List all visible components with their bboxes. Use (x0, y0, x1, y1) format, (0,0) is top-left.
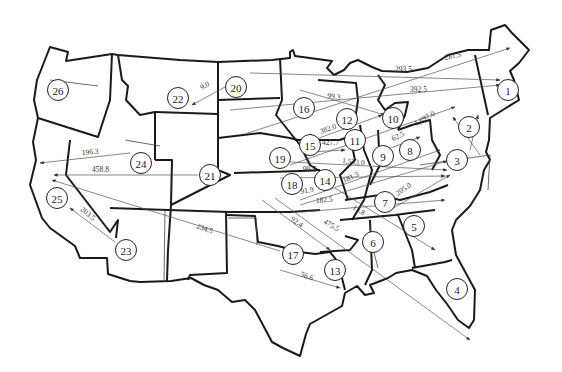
region-number: 22 (173, 93, 184, 105)
region-number: 2 (466, 122, 472, 134)
region-number: 9 (380, 151, 386, 163)
region-number: 4 (454, 284, 460, 296)
region-number: 6 (370, 237, 376, 249)
flow-value-label: 99.3 (327, 91, 341, 102)
us-outline (30, 25, 529, 356)
region-nodes: 1234567891011121314151617181920212223242… (47, 77, 519, 300)
region-number: 3 (454, 155, 460, 167)
region-node: 26 (48, 80, 69, 101)
boundary-co-nm (110, 208, 320, 212)
boundary-ny-ne (475, 55, 488, 115)
region-node: 1 (498, 80, 519, 101)
flow-value-label: 196.3 (81, 147, 99, 157)
region-number: 11 (350, 135, 361, 147)
region-number: 26 (53, 85, 65, 97)
region-node: 11 (345, 130, 366, 151)
region-node: 9 (373, 146, 394, 167)
region-number: 8 (407, 145, 413, 157)
flow-value-label: 13.8 (351, 203, 367, 217)
boundary-ga-fl (412, 260, 452, 268)
flow-value-label: 62.5 (390, 129, 406, 143)
region-node: 7 (375, 192, 396, 213)
region-node: 14 (315, 170, 336, 191)
boundary-ar-la (320, 236, 358, 252)
region-node: 18 (282, 174, 303, 195)
flow-value-label: 234.5 (195, 221, 214, 235)
region-node: 17 (283, 244, 304, 265)
region-number: 23 (121, 245, 133, 257)
region-number: 19 (275, 153, 287, 165)
flow-arrow (275, 198, 470, 340)
flow-value-label: 427.7 (322, 138, 339, 147)
region-number: 10 (388, 113, 400, 125)
region-node: 5 (404, 216, 425, 237)
region-node: 19 (270, 148, 291, 169)
us-flow-map: 293.5281.5392.599.31,697.0382.0427.762.5… (0, 0, 562, 372)
region-node: 3 (447, 150, 468, 171)
region-node: 6 (363, 232, 384, 253)
region-node: 24 (131, 153, 152, 174)
region-number: 25 (52, 193, 64, 205)
state-boundaries (30, 25, 529, 356)
region-number: 16 (299, 103, 311, 115)
region-node: 16 (294, 98, 315, 119)
region-number: 7 (382, 197, 388, 209)
flow-value-label: 293.5 (395, 65, 412, 74)
region-node: 10 (383, 108, 404, 129)
region-node: 22 (168, 88, 189, 109)
region-node: 4 (447, 279, 468, 300)
flow-arrow (192, 87, 225, 105)
flow-value-label: 99.5 (303, 165, 316, 174)
flow-value-label: 203.5 (79, 205, 98, 223)
boundary-nm-tx (188, 212, 227, 280)
flow-value-label: 56.6 (299, 269, 315, 282)
region-number: 14 (320, 175, 332, 187)
region-node: 12 (337, 109, 358, 130)
flow-value-label: 1,697.0 (413, 109, 437, 128)
flow-arrow (250, 73, 500, 80)
region-node: 23 (116, 240, 137, 261)
flow-value-label: 458.8 (92, 165, 109, 174)
region-number: 20 (231, 82, 243, 94)
region-number: 12 (342, 114, 353, 126)
region-node: 21 (200, 165, 221, 186)
boundary-sd-ne (218, 133, 298, 140)
flow-value-label: 475.5 (322, 217, 341, 233)
region-number: 21 (205, 170, 216, 182)
region-number: 5 (411, 221, 417, 233)
region-number: 18 (287, 179, 299, 191)
region-node: 25 (47, 188, 68, 209)
flow-value-label: 9.0 (199, 79, 212, 92)
region-node: 8 (400, 140, 421, 161)
flow-value-label: 92.4 (289, 214, 305, 229)
region-number: 15 (305, 140, 317, 152)
region-node: 13 (325, 260, 346, 281)
flow-value-label: 182.5 (315, 195, 333, 205)
flow-value-label: 281.5 (444, 50, 463, 62)
region-node: 15 (300, 135, 321, 156)
region-node: 20 (226, 77, 247, 98)
boundary-thin-3 (164, 211, 165, 282)
region-number: 13 (330, 265, 342, 277)
flow-value-label: 205.0 (394, 180, 413, 197)
region-node: 2 (459, 117, 480, 138)
boundary-nd-sd (218, 98, 280, 100)
boundary-thin-4 (228, 218, 257, 245)
region-number: 1 (505, 85, 511, 97)
flow-value-label: 392.5 (410, 85, 427, 94)
region-number: 24 (136, 158, 148, 170)
boundary-ut-co (155, 160, 172, 281)
flow-value-label: 382.0 (319, 122, 338, 136)
flow-value-label: 1,533.0 (342, 156, 365, 167)
region-number: 17 (288, 249, 300, 261)
